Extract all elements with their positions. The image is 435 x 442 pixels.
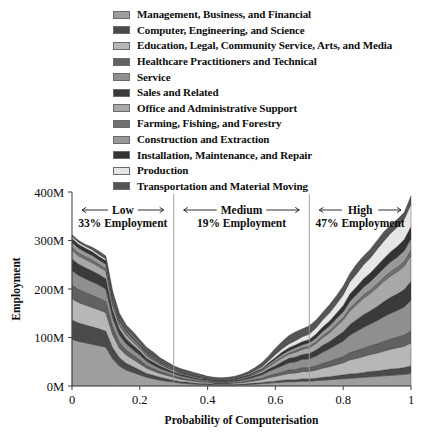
legend-item-label: Computer, Engineering, and Science <box>137 25 305 36</box>
legend-item: Service <box>113 69 433 85</box>
x-tick-label: 0.6 <box>268 393 284 407</box>
legend-item: Management, Business, and Financial <box>113 7 433 23</box>
legend-item: Installation, Maintenance, and Repair <box>113 147 433 163</box>
legend-swatch <box>113 136 130 144</box>
zone-annotation-medium: Medium19% Employment <box>184 204 300 230</box>
y-axis-title: Employment <box>10 257 23 320</box>
zone-annotation-high: High47% Employment <box>316 204 405 230</box>
x-tick-label: 0.4 <box>200 393 216 407</box>
zone-annotation-low: Low33% Employment <box>78 204 167 230</box>
legend-swatch <box>113 42 130 50</box>
legend-swatch <box>113 73 130 81</box>
legend-item: Farming, Fishing, and Forestry <box>113 116 433 132</box>
legend-item-label: Farming, Fishing, and Forestry <box>137 118 281 129</box>
zone-label: Medium <box>221 204 263 216</box>
y-tick-label: 400M <box>34 186 64 200</box>
legend-item-label: Service <box>137 72 171 83</box>
y-tick-label: 0M <box>47 380 64 394</box>
legend-swatch <box>113 26 130 34</box>
legend-item-label: Installation, Maintenance, and Repair <box>137 150 312 161</box>
legend-swatch <box>113 11 130 19</box>
legend-swatch <box>113 104 130 112</box>
legend-item: Computer, Engineering, and Science <box>113 23 433 39</box>
zone-sublabel: 47% Employment <box>316 217 405 230</box>
x-tick-label: 1 <box>408 393 414 407</box>
legend-item-label: Sales and Related <box>137 87 218 98</box>
x-axis-title: Probability of Computerisation <box>165 414 319 427</box>
y-tick-label: 300M <box>34 234 64 248</box>
legend-item-label: Education, Legal, Community Service, Art… <box>137 40 392 51</box>
x-tick-label: 0.8 <box>335 393 351 407</box>
legend-item-label: Office and Administrative Support <box>137 103 297 114</box>
legend-item: Healthcare Practitioners and Technical <box>113 54 433 70</box>
legend-item-label: Healthcare Practitioners and Technical <box>137 56 317 67</box>
plot-area: 0M100M200M300M400M00.20.40.60.81Probabil… <box>0 186 435 442</box>
stacked-area-chart: 0M100M200M300M400M00.20.40.60.81Probabil… <box>0 186 435 442</box>
legend-item-label: Construction and Extraction <box>137 134 269 145</box>
legend-item: Production <box>113 163 433 179</box>
legend-swatch <box>113 58 130 66</box>
legend-item: Office and Administrative Support <box>113 101 433 117</box>
chart-legend: Management, Business, and FinancialCompu… <box>113 7 433 194</box>
legend-item-label: Production <box>137 165 188 176</box>
chart-figure: Management, Business, and FinancialCompu… <box>0 0 435 442</box>
x-tick-label: 0 <box>69 393 75 407</box>
legend-item-label: Management, Business, and Financial <box>137 9 311 20</box>
zone-label: High <box>348 204 373 217</box>
y-tick-label: 100M <box>34 331 64 345</box>
zone-label: Low <box>112 204 134 216</box>
y-tick-label: 200M <box>34 283 64 297</box>
legend-swatch <box>113 151 130 159</box>
legend-item: Sales and Related <box>113 85 433 101</box>
legend-swatch <box>113 167 130 175</box>
legend-swatch <box>113 120 130 128</box>
zone-sublabel: 33% Employment <box>78 217 167 230</box>
zone-sublabel: 19% Employment <box>197 217 286 230</box>
legend-item: Education, Legal, Community Service, Art… <box>113 38 433 54</box>
legend-item: Construction and Extraction <box>113 132 433 148</box>
legend-swatch <box>113 89 130 97</box>
x-tick-label: 0.2 <box>132 393 148 407</box>
